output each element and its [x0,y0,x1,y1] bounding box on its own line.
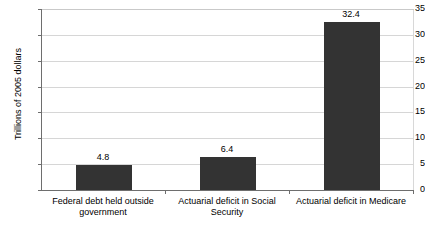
y-axis-tick-mark [38,87,42,88]
y-axis-tick-mark [38,138,42,139]
x-axis-category-label: Actuarial deficit in Medicare [289,196,413,207]
x-axis-tick-mark [413,190,414,194]
plot-area [41,9,414,191]
bar-chart: Trillions of 2005 dollars 05101520253035… [0,0,425,226]
x-axis-category-label-line: government [41,207,165,218]
bar [200,157,256,190]
x-axis-category-label-line: Actuarial deficit in Medicare [289,196,413,207]
x-axis-category-label: Federal debt held outsidegovernment [41,196,165,218]
y-axis-tick-mark [38,112,42,113]
bar-value-label: 4.8 [73,153,133,162]
y-axis-tick-mark [38,61,42,62]
y-axis-tick-mark [38,190,42,191]
bar-value-label: 32.4 [321,10,381,19]
y-axis-tick-mark [38,9,42,10]
y-axis-title: Trillions of 2005 dollars [13,4,23,184]
x-axis-tick-mark [165,190,166,194]
x-axis-category-label-line: Security [165,207,289,218]
bar [324,22,380,190]
x-axis-category-label-line: Actuarial deficit in Social [165,196,289,207]
x-axis-category-label-line: Federal debt held outside [41,196,165,207]
y-axis-tick-mark [38,164,42,165]
x-axis-category-label: Actuarial deficit in SocialSecurity [165,196,289,218]
x-axis-tick-mark [289,190,290,194]
bar-value-label: 6.4 [197,145,257,154]
bar [76,165,132,190]
y-axis-tick-mark [38,35,42,36]
